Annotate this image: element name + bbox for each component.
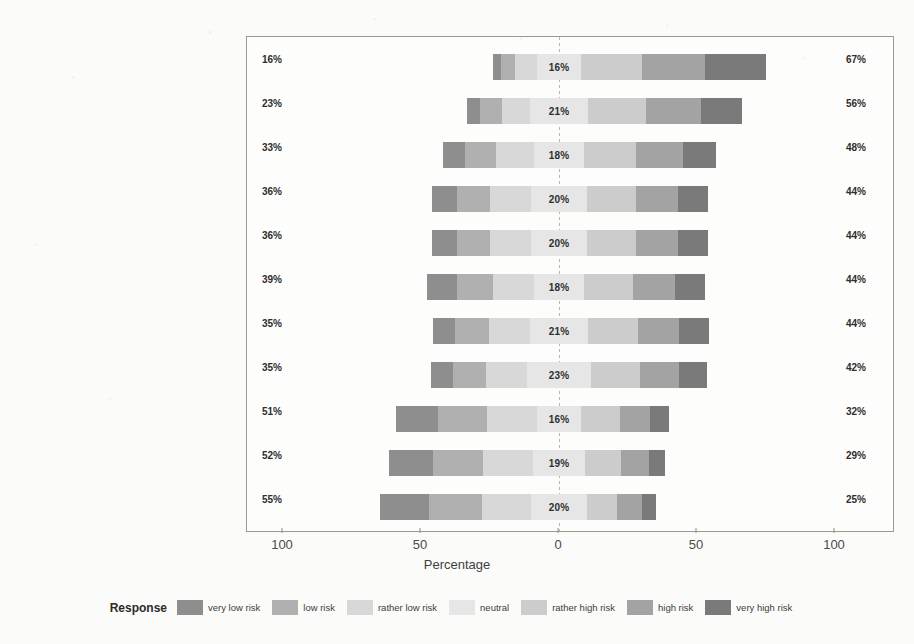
right-total-percent: 56% [846, 98, 866, 109]
bar-segment-rather-low-risk [515, 54, 537, 80]
neutral-value-label: 16% [537, 54, 581, 80]
bar-segment-very-high-risk [683, 142, 716, 168]
legend-swatch [449, 600, 475, 615]
right-total-percent: 44% [846, 274, 866, 285]
neutral-value-label: 21% [530, 98, 588, 124]
legend-label: neutral [480, 602, 509, 613]
legend-item[interactable]: low risk [272, 600, 335, 615]
bar-segment-high-risk [638, 318, 679, 344]
left-total-percent: 55% [262, 494, 282, 505]
right-total-percent: 44% [846, 318, 866, 329]
bar-segment-very-high-risk [679, 362, 707, 388]
bar-segment-low-risk [453, 362, 486, 388]
bar-segment-very-low-risk [432, 186, 457, 212]
bar-segment-high-risk [620, 406, 650, 432]
bar-segment-rather-low-risk [489, 318, 530, 344]
bar-row: 20% [247, 177, 893, 221]
legend-item[interactable]: neutral [449, 600, 509, 615]
legend-label: very low risk [208, 602, 260, 613]
legend-item[interactable]: very low risk [177, 600, 260, 615]
bar-segment-rather-high-risk [587, 186, 637, 212]
bar-segment-rather-low-risk [482, 494, 532, 520]
bar-segment-low-risk [457, 274, 493, 300]
bar-row: 16% [247, 45, 893, 89]
bar-segment-very-low-risk [431, 362, 453, 388]
x-tick-label: 0 [554, 537, 561, 552]
legend-item[interactable]: high risk [627, 600, 693, 615]
left-total-percent: 36% [262, 186, 282, 197]
stacked-bar [493, 54, 766, 80]
bar-segment-very-high-risk [705, 54, 766, 80]
neutral-value-label: 19% [533, 450, 585, 476]
bar-segment-low-risk [457, 230, 490, 256]
bar-segment-low-risk [501, 54, 515, 80]
bar-segment-low-risk [429, 494, 481, 520]
bar-segment-rather-low-risk [486, 362, 527, 388]
bar-segment-low-risk [480, 98, 502, 124]
left-total-percent: 35% [262, 318, 282, 329]
legend-item[interactable]: rather high risk [521, 600, 615, 615]
bar-segment-rather-high-risk [584, 274, 634, 300]
legend-label: low risk [303, 602, 335, 613]
x-axis-title: Percentage [0, 557, 914, 572]
bar-row: 19% [247, 441, 893, 485]
bar-segment-high-risk [640, 362, 679, 388]
bar-segment-high-risk [621, 450, 649, 476]
legend: Response very low risklow riskrather low… [0, 600, 914, 615]
bar-segment-very-low-risk [396, 406, 437, 432]
bar-segment-very-high-risk [701, 98, 742, 124]
bar-segment-rather-high-risk [585, 450, 621, 476]
bar-segment-low-risk [433, 450, 483, 476]
x-axis-ticks: 10050050100 [246, 533, 894, 553]
x-tick-label: 100 [271, 537, 293, 552]
bar-segment-very-high-risk [649, 450, 666, 476]
bar-segment-very-high-risk [675, 274, 705, 300]
stacked-bar [389, 450, 665, 476]
bar-segment-rather-high-risk [587, 494, 617, 520]
bar-segment-very-high-risk [678, 186, 708, 212]
bar-segment-rather-low-risk [490, 230, 531, 256]
bar-segment-very-high-risk [642, 494, 656, 520]
neutral-value-label: 23% [527, 362, 590, 388]
bar-segment-high-risk [642, 54, 705, 80]
bar-segment-very-low-risk [427, 274, 457, 300]
bar-row: 20% [247, 221, 893, 265]
bar-segment-very-low-risk [467, 98, 481, 124]
left-total-percent: 33% [262, 142, 282, 153]
right-total-percent: 48% [846, 142, 866, 153]
legend-item[interactable]: rather low risk [347, 600, 437, 615]
bar-segment-very-low-risk [380, 494, 430, 520]
bar-segment-rather-high-risk [588, 318, 638, 344]
bar-segment-very-low-risk [433, 318, 455, 344]
bar-segment-very-low-risk [389, 450, 433, 476]
right-total-percent: 42% [846, 362, 866, 373]
stacked-bar [396, 406, 669, 432]
right-total-percent: 67% [846, 54, 866, 65]
legend-label: rather high risk [552, 602, 615, 613]
neutral-value-label: 16% [537, 406, 581, 432]
x-tick-mark [420, 528, 421, 533]
left-total-percent: 23% [262, 98, 282, 109]
bar-segment-rather-low-risk [493, 274, 534, 300]
bar-row: 18% [247, 265, 893, 309]
left-total-percent: 36% [262, 230, 282, 241]
legend-title: Response [110, 601, 167, 615]
right-total-percent: 25% [846, 494, 866, 505]
bar-segment-rather-low-risk [490, 186, 531, 212]
bar-segment-high-risk [636, 230, 677, 256]
neutral-value-label: 18% [534, 274, 584, 300]
x-tick-mark [834, 528, 835, 533]
bar-rows: 16%21%18%20%20%18%21%23%16%19%20% [247, 37, 893, 531]
bar-segment-very-low-risk [432, 230, 457, 256]
legend-item[interactable]: very high risk [705, 600, 792, 615]
bar-row: 21% [247, 309, 893, 353]
x-tick-label: 50 [413, 537, 427, 552]
neutral-value-label: 20% [531, 230, 586, 256]
x-tick-mark [558, 528, 559, 533]
bar-segment-low-risk [455, 318, 488, 344]
legend-label: rather low risk [378, 602, 437, 613]
right-total-percent: 44% [846, 186, 866, 197]
legend-swatch [627, 600, 653, 615]
right-total-percent: 29% [846, 450, 866, 461]
bar-segment-high-risk [636, 142, 683, 168]
